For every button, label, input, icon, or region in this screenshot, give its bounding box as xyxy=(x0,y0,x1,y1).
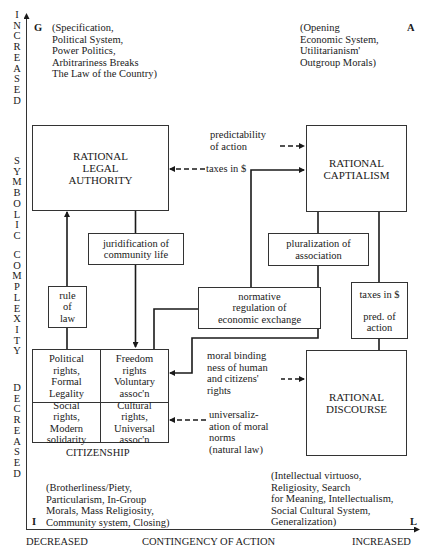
taxes-pred-box: taxes in $ pred. of action xyxy=(351,282,408,339)
rational-discourse-box: RATIONAL DISCOURSE xyxy=(306,350,407,456)
citizenship-label: CITIZENSHIP xyxy=(66,447,130,459)
corner-letter-g: G xyxy=(34,22,42,34)
y-axis-top-label: I N C R E A S E D xyxy=(11,10,23,106)
freedom-rights-cell: Freedom rights Voluntary assoc'n xyxy=(101,350,168,403)
corner-i-description: (Brotherliness/Piety, Particularism, In-… xyxy=(46,482,169,528)
rational-legal-authority-box: RATIONAL LEGAL AUTHORITY xyxy=(32,125,169,211)
corner-l-description: (Intellectual virtuoso, Religiosity, Sea… xyxy=(271,470,393,528)
taxes-pred-label: taxes in $ pred. of action xyxy=(359,289,399,333)
corner-g-description: (Specification, Political System, Power … xyxy=(52,22,157,80)
x-axis-center-label: CONTINGENCY OF ACTION xyxy=(142,536,275,548)
normative-regulation-box: normative regulation of economic exchang… xyxy=(198,287,321,329)
moral-binding-label: moral binding ness of human and citizens… xyxy=(207,350,268,396)
pluralization-label: pluralization of association xyxy=(286,238,350,261)
political-rights-cell: Political rights, Formal Legality xyxy=(33,350,101,403)
rational-discourse-label: RATIONAL DISCOURSE xyxy=(326,391,387,415)
normative-regulation-label: normative regulation of economic exchang… xyxy=(218,291,301,326)
pluralization-box: pluralization of association xyxy=(268,233,369,266)
rational-capitalism-box: RATIONAL CAPTIALISM xyxy=(306,125,407,212)
corner-letter-l: L xyxy=(410,516,417,528)
universalization-label: universaliz- ation of moral norms (natur… xyxy=(209,409,268,455)
juridification-box: juridification of community life xyxy=(88,233,184,265)
corner-letter-i: I xyxy=(32,516,36,528)
rational-legal-authority-label: RATIONAL LEGAL AUTHORITY xyxy=(68,150,132,186)
citizenship-grid: Political rights, Formal Legality Freedo… xyxy=(32,349,169,443)
y-axis-label-complexity: C O M P L E X I T Y xyxy=(11,250,23,357)
rational-capitalism-label: RATIONAL CAPTIALISM xyxy=(323,157,389,181)
y-axis-bottom-label: D E C R E A S E D xyxy=(11,383,23,479)
predictability-label: predictability of action xyxy=(210,129,266,152)
corner-letter-a: A xyxy=(407,22,415,34)
taxes-label: taxes in $ xyxy=(206,163,246,175)
x-axis-left-label: DECREASED xyxy=(26,536,88,548)
corner-a-description: (Opening Economic System, Utilitarianism… xyxy=(300,22,379,68)
social-rights-cell: Social rights, Modern solidarity xyxy=(33,403,101,442)
y-axis-label-symbolic: S Y M B O L I C xyxy=(11,156,23,242)
x-axis-right-label: INCREASED xyxy=(352,536,411,548)
cultural-rights-cell: Cultural rights, Universal assoc'n xyxy=(101,403,168,442)
juridification-label: juridification of community life xyxy=(103,238,169,261)
rule-of-law-box: rule of law xyxy=(48,286,87,328)
rule-of-law-label: rule of law xyxy=(59,290,75,325)
